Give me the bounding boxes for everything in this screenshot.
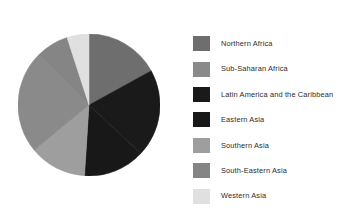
legend-item[interactable]: South-Eastern Asia — [193, 158, 353, 183]
legend-item-label: Southern Asia — [221, 142, 269, 149]
legend-item[interactable]: Latin America and the Caribbean — [193, 82, 353, 107]
legend-item[interactable]: Eastern Asia — [193, 107, 353, 132]
pie-chart-figure: Northern AfricaSub-Saharan AfricaLatin A… — [0, 0, 356, 217]
legend-item-label: Sub-Saharan Africa — [221, 65, 288, 72]
legend-item[interactable]: Southern Asia — [193, 133, 353, 158]
legend-item[interactable]: Sub-Saharan Africa — [193, 56, 353, 81]
legend-item-label: South-Eastern Asia — [221, 167, 287, 174]
legend-item-label: Northern Africa — [221, 40, 273, 47]
legend-color-swatch — [193, 87, 210, 102]
legend-item-label: Latin America and the Caribbean — [221, 91, 333, 98]
legend-item-label: Eastern Asia — [221, 116, 264, 123]
pie-svg — [18, 34, 160, 176]
pie-chart-plot — [18, 34, 160, 176]
legend-item-label: Western Asia — [221, 192, 266, 199]
legend-item[interactable]: Western Asia — [193, 183, 353, 208]
legend-color-swatch — [193, 36, 210, 51]
legend-color-swatch — [193, 163, 210, 178]
legend-color-swatch — [193, 62, 210, 77]
legend-color-swatch — [193, 189, 210, 204]
pie-slice-group — [18, 34, 160, 176]
legend-color-swatch — [193, 138, 210, 153]
chart-legend: Northern AfricaSub-Saharan AfricaLatin A… — [193, 31, 353, 209]
legend-item[interactable]: Northern Africa — [193, 31, 353, 56]
legend-color-swatch — [193, 112, 210, 127]
